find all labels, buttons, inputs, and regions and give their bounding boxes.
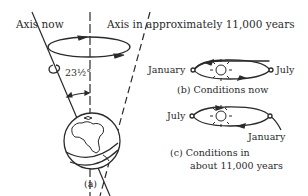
january-label-now: January	[148, 64, 185, 76]
tilt-angle-label: 23½°	[65, 67, 91, 79]
sun-icon	[210, 59, 232, 81]
orbit-future	[190, 105, 281, 130]
earth-january-marker	[191, 68, 195, 72]
earth-globe	[64, 113, 120, 169]
july-label-now: July	[276, 64, 294, 76]
arrow-head-icon	[238, 124, 245, 128]
arrow-head-icon	[238, 76, 245, 80]
january-label-future: January	[248, 131, 285, 143]
orbit-now	[191, 59, 273, 81]
earth-july-marker	[190, 114, 194, 118]
panel-c-caption-line2: about 11,000 years	[190, 160, 283, 172]
earth-january-marker	[268, 114, 272, 118]
panel-b-caption: (b) Conditions now	[177, 84, 268, 96]
axis-future-line	[100, 12, 150, 196]
panel-c-caption-line1: (c) Conditions in	[170, 147, 250, 159]
panel-a-caption: (a)	[84, 178, 97, 190]
earth-july-marker	[269, 68, 273, 72]
precession-diagram: Axis now Axis in approximately 11,000 ye…	[0, 0, 308, 196]
arrow-head-icon	[114, 54, 124, 58]
rotation-arrow-icon	[49, 65, 60, 73]
axis-future-label: Axis in approximately 11,000 years	[107, 18, 295, 30]
arrow-head-icon	[78, 36, 87, 40]
july-label-future: July	[167, 110, 185, 122]
axis-now-label: Axis now	[16, 18, 64, 30]
